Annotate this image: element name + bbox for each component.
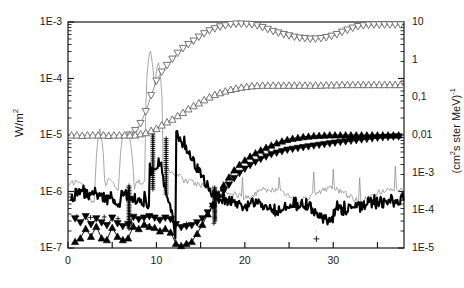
chart-figure: W/m2 (cm2s ster MeV)-1 1E-31E-41E-51E-61… [0,0,464,288]
data-marker [82,225,89,231]
series-line [75,135,399,246]
series-open-up-triangle [68,81,404,138]
plus-marker [88,215,93,220]
data-marker [153,78,160,84]
data-marker [193,230,200,236]
data-marker [77,235,84,241]
data-marker [172,240,179,246]
series-line [75,137,399,228]
data-marker [98,235,105,241]
plot-canvas [0,0,464,288]
series-line [72,85,401,136]
plus-marker [313,236,319,242]
data-marker [87,233,94,239]
data-marker [103,222,110,228]
data-marker [114,233,121,239]
data-marker [87,221,94,227]
data-marker [162,225,169,231]
plus-marker [102,215,107,220]
data-marker [158,69,165,75]
data-marker [119,223,126,229]
thin-line-path [69,51,404,203]
data-marker [142,108,149,114]
data-marker [169,56,176,62]
data-marker [137,120,144,126]
data-marker [93,223,100,229]
data-marker [125,235,132,241]
data-marker [148,92,155,98]
series-thin-spiky-line [69,51,404,203]
data-marker [188,238,195,244]
data-marker [135,216,142,222]
data-marker [77,220,84,226]
data-marker [163,62,170,68]
plus-marker [211,221,216,226]
data-marker [109,224,116,230]
